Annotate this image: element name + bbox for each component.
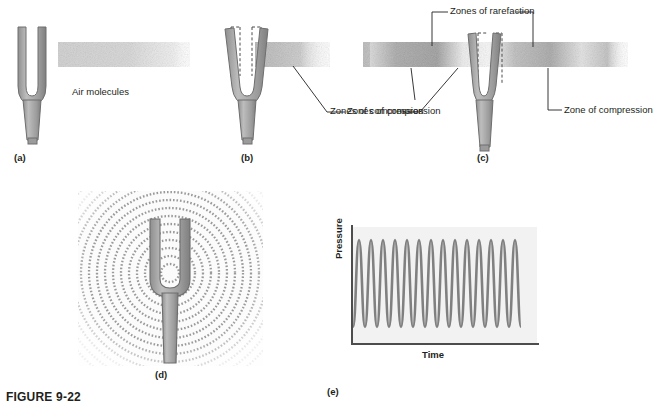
air-molecules-label: Air molecules <box>72 86 129 98</box>
panel-c-graphic <box>370 0 633 170</box>
tuning-fork-b <box>225 28 268 144</box>
pressure-time-chart <box>325 215 625 385</box>
panel-label-a: (a) <box>14 152 26 163</box>
zones-of-rarefaction-label: Zones of rarefaction <box>450 5 516 17</box>
tuning-fork-a <box>18 27 46 144</box>
chart-x-axis-label: Time <box>422 349 444 361</box>
panel-label-b: (b) <box>241 152 253 163</box>
panel-d: (d) <box>72 185 287 400</box>
air-molecule-band-a <box>58 42 190 67</box>
figure-caption: FIGURE 9-22 <box>6 390 81 404</box>
zones-of-compression-label-c: Zones of compression <box>330 105 423 117</box>
panel-label-e: (e) <box>327 386 339 397</box>
panel-e: Pressure Time (e) <box>325 215 625 400</box>
chart-y-axis-label: Pressure <box>333 218 345 259</box>
panel-label-c: (c) <box>477 152 489 163</box>
leader-lines-rarefaction-c <box>432 12 533 47</box>
panel-d-graphic <box>72 185 287 385</box>
panel-c: Zones of rarefaction Zones of compressio… <box>370 0 633 170</box>
panel-a: Air molecules (a) <box>0 0 215 170</box>
panel-a-graphic <box>0 0 215 170</box>
panel-label-d: (d) <box>155 369 167 380</box>
zone-of-compression-label-c: Zone of compression <box>564 104 653 116</box>
